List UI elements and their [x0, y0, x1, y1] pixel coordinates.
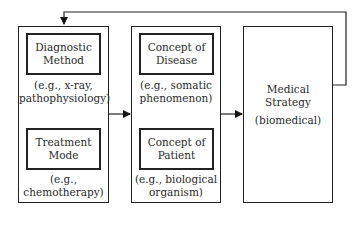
node-title: Treatment Mode	[28, 136, 99, 162]
node-diagnostic-method: Diagnostic Method	[26, 33, 101, 75]
node-title: Concept of Disease	[141, 41, 212, 67]
node-example: (e.g., somatic phenomenon)	[132, 79, 220, 105]
node-title: Diagnostic Method	[28, 41, 99, 67]
node-example: (e.g., biological organism)	[132, 173, 220, 199]
node-treatment-mode: Treatment Mode	[26, 128, 101, 170]
node-example: (biomedical)	[244, 114, 332, 127]
group-middle: Concept of Disease (e.g., somatic phenom…	[131, 26, 221, 203]
node-concept-of-disease: Concept of Disease	[139, 33, 214, 75]
node-concept-of-patient: Concept of Patient	[139, 128, 214, 170]
node-example: (e.g., x-ray, pathophysiology)	[19, 79, 108, 105]
group-left: Diagnostic Method (e.g., x-ray, pathophy…	[18, 26, 109, 203]
node-title: Concept of Patient	[141, 136, 212, 162]
node-example: (e.g., chemotherapy)	[19, 173, 108, 199]
node-medical-strategy: Medical Strategy (biomedical)	[243, 26, 333, 203]
node-title: Medical Strategy	[244, 83, 332, 109]
